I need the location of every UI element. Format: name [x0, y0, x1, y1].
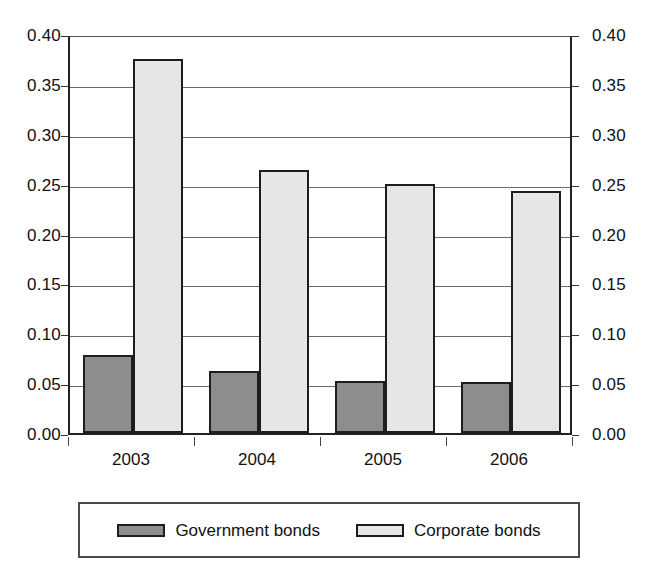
y-axis-tick-mark-left — [61, 435, 68, 436]
y-axis-tick-mark-left — [61, 86, 68, 87]
y-axis-tick-label-left: 0.25 — [27, 177, 61, 194]
bar-2006-government — [461, 382, 511, 433]
y-axis-tick-label-right: 0.15 — [592, 276, 626, 293]
y-axis-tick-mark-left — [61, 285, 68, 286]
y-axis-tick-label-right: 0.10 — [592, 326, 626, 343]
y-axis-tick-label-right: 0.00 — [592, 426, 626, 443]
y-axis-tick-label-right: 0.25 — [592, 177, 626, 194]
y-axis-tick-label-left: 0.05 — [27, 376, 61, 393]
legend-swatch-government-bonds — [117, 524, 165, 537]
x-axis-tick-mark — [446, 437, 447, 446]
bar-2005-corporate — [385, 184, 435, 433]
x-axis-category-label: 2006 — [469, 450, 549, 469]
legend-label-government-bonds: Government bonds — [175, 521, 320, 540]
y-axis-tick-label-left: 0.20 — [27, 227, 61, 244]
y-axis-tick-mark-left — [61, 385, 68, 386]
bar-2004-government — [209, 371, 259, 433]
y-axis-tick-mark-right — [572, 236, 579, 237]
y-axis-tick-label-left: 0.15 — [27, 276, 61, 293]
y-axis-tick-label-right: 0.35 — [592, 77, 626, 94]
legend-swatch-corporate-bonds — [356, 524, 404, 537]
y-axis-tick-label-right: 0.40 — [592, 27, 626, 44]
y-axis-tick-mark-right — [572, 136, 579, 137]
y-axis-tick-label-right: 0.30 — [592, 127, 626, 144]
x-axis-category-label: 2003 — [91, 450, 171, 469]
y-axis-tick-label-left: 0.10 — [27, 326, 61, 343]
x-axis-category-label: 2005 — [343, 450, 423, 469]
legend-entry-government-bonds: Government bonds — [117, 521, 320, 540]
y-axis-tick-mark-right — [572, 435, 579, 436]
y-axis-tick-mark-left — [61, 136, 68, 137]
x-axis-tick-mark — [320, 437, 321, 446]
y-axis-tick-mark-left — [61, 36, 68, 37]
y-axis-tick-mark-right — [572, 36, 579, 37]
bar-chart: 0.000.000.050.050.100.100.150.150.200.20… — [0, 0, 653, 572]
y-axis-tick-mark-left — [61, 236, 68, 237]
y-axis-tick-label-left: 0.35 — [27, 77, 61, 94]
y-axis-tick-label-right: 0.20 — [592, 227, 626, 244]
bar-2004-corporate — [259, 170, 309, 433]
y-axis-tick-mark-right — [572, 86, 579, 87]
y-axis-tick-mark-right — [572, 186, 579, 187]
bar-2003-government — [83, 355, 133, 433]
x-axis-category-label: 2004 — [217, 450, 297, 469]
x-axis-tick-mark — [194, 437, 195, 446]
y-axis-tick-mark-right — [572, 285, 579, 286]
x-axis-tick-mark — [572, 437, 573, 446]
bar-2003-corporate — [133, 59, 183, 433]
chart-legend: Government bonds Corporate bonds — [78, 502, 580, 558]
legend-entry-corporate-bonds: Corporate bonds — [356, 521, 541, 540]
plot-area — [68, 36, 572, 435]
y-axis-tick-mark-right — [572, 335, 579, 336]
x-axis-tick-mark — [68, 437, 69, 446]
y-axis-tick-label-left: 0.40 — [27, 27, 61, 44]
y-axis-tick-label-left: 0.00 — [27, 426, 61, 443]
y-axis-tick-mark-right — [572, 385, 579, 386]
y-axis-tick-label-right: 0.05 — [592, 376, 626, 393]
bar-2005-government — [335, 381, 385, 433]
bar-2006-corporate — [511, 191, 561, 433]
y-axis-tick-mark-left — [61, 335, 68, 336]
y-axis-tick-label-left: 0.30 — [27, 127, 61, 144]
legend-label-corporate-bonds: Corporate bonds — [414, 521, 541, 540]
y-axis-tick-mark-left — [61, 186, 68, 187]
